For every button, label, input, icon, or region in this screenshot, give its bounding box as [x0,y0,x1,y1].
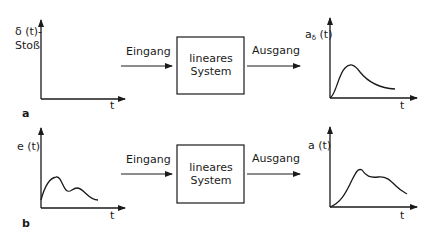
panel-b-input-curve [41,177,98,200]
panel-a-output-arrow-label: Ausgang [252,45,300,57]
panel-b-system-line2: System [177,174,245,187]
panel-a-input-axes [41,20,125,99]
panel-b-output-ylabel: a (t) [308,140,331,152]
panel-b-input-ylabel: e (t) [17,141,40,153]
panel-a-system-label: lineares System [177,52,245,78]
panel-a-system-line2: System [177,65,245,78]
panel-a-output-axes [330,18,417,98]
panel-a-output-ylabel-main: a [305,28,312,41]
panel-b-letter: b [22,217,30,230]
panel-b-input-xlabel: t [110,210,114,222]
panel-a-output-curve [330,65,395,98]
panel-a-input-ylabel-line1: δ (t)- [15,26,42,38]
panel-a-input-arrow-label: Eingang [126,46,171,58]
panel-b-input-arrow-label: Eingang [126,154,171,166]
panel-a-input-ylabel-line2: Stoß [15,40,40,52]
panel-a-output-ylabel: aδ (t) [305,29,332,44]
panel-a-output-xlabel: t [400,100,404,112]
panel-a-input-xlabel: t [110,100,114,112]
panel-a-output-ylabel-rest: (t) [316,28,332,41]
diagram-canvas [0,0,436,237]
panel-b-system-label: lineares System [177,161,245,187]
panel-b-system-line1: lineares [177,161,245,174]
panel-b-output-xlabel: t [400,210,404,222]
panel-b-output-axes [330,127,417,207]
panel-a-letter: a [22,107,29,120]
panel-a-system-line1: lineares [177,52,245,65]
panel-b-input-axes [41,128,125,208]
panel-b-output-curve [330,169,407,207]
panel-b-output-arrow-label: Ausgang [252,153,300,165]
